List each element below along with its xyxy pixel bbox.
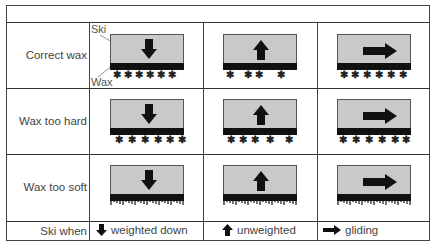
ski-diagram: ✱✱✱✱✱✱ <box>337 34 411 71</box>
ski-diagram <box>223 165 297 202</box>
ski-diagram <box>110 165 184 202</box>
row-divider <box>6 154 430 155</box>
row-label-ski-when: Ski when <box>8 225 87 237</box>
ski-body <box>110 34 184 64</box>
arrow-up-icon <box>253 171 269 191</box>
snowflake-icon: ✱ <box>365 136 373 144</box>
row-divider <box>6 221 430 222</box>
column-divider <box>89 23 90 241</box>
legend-unweighted: unweighted <box>222 224 296 236</box>
snow-grip-points: ✱✱✱✱✱✱ <box>337 71 411 79</box>
legend-label: weighted down <box>111 224 188 236</box>
snowflake-icon: ✱ <box>402 136 410 144</box>
ski-diagram: ✱✱✱✱✱✱ <box>110 34 184 71</box>
snowflake-icon: ✱ <box>124 71 132 79</box>
legend-label: unweighted <box>237 224 296 236</box>
ski-body <box>337 99 411 129</box>
snowflake-icon: ✱ <box>239 136 247 144</box>
snowflake-icon: ✱ <box>399 71 407 79</box>
snowflake-icon: ✱ <box>244 71 252 79</box>
arrow-right-icon <box>363 174 397 190</box>
snow-grip-points: ✱✱✱✱✱✱ <box>110 136 184 144</box>
snowflake-icon: ✱ <box>226 71 234 79</box>
snowflake-icon: ✱ <box>135 71 143 79</box>
arrow-down-icon <box>141 39 157 59</box>
snowflake-icon: ✱ <box>387 71 395 79</box>
arrow-right-icon <box>363 108 397 124</box>
legend-weighted-down: weighted down <box>96 224 188 236</box>
snowflake-icon: ✱ <box>375 71 383 79</box>
ski-body <box>337 34 411 64</box>
row-divider <box>6 88 430 89</box>
ski-body <box>337 165 411 195</box>
arrow-down-icon <box>141 104 157 124</box>
snowflake-icon: ✱ <box>266 136 274 144</box>
column-divider <box>203 23 204 241</box>
ski-body <box>223 34 297 64</box>
snow-grip-points: ✱✱✱✱✱✱ <box>110 71 184 79</box>
snowflake-icon: ✱ <box>255 71 263 79</box>
arrow-down-icon <box>96 224 107 236</box>
ski-body <box>110 99 184 129</box>
arrow-up-icon <box>222 224 233 236</box>
soft-wax-drips <box>337 200 411 205</box>
snowflake-icon: ✱ <box>363 71 371 79</box>
ski-body <box>110 165 184 195</box>
snowflake-icon: ✱ <box>113 71 121 79</box>
snow-grip-points: ✱✱✱✱ <box>223 71 297 79</box>
ski-diagram: ✱✱✱✱✱ <box>223 99 297 136</box>
snowflake-icon: ✱ <box>141 136 149 144</box>
legend-label: gliding <box>345 224 378 236</box>
ski-diagram: ✱✱✱✱✱✱ <box>110 99 184 136</box>
arrow-down-icon <box>141 170 157 190</box>
arrow-right-icon <box>323 225 341 235</box>
snow-grip-points: ✱✱✱✱✱✱ <box>337 136 411 144</box>
snowflake-icon: ✱ <box>285 136 293 144</box>
snowflake-icon: ✱ <box>378 136 386 144</box>
snowflake-icon: ✱ <box>277 71 285 79</box>
row-label-correct-wax: Correct wax <box>8 49 87 61</box>
ski-diagram <box>337 165 411 202</box>
row-label-wax-too-hard: Wax too hard <box>8 115 87 127</box>
legend-gliding: gliding <box>323 224 378 236</box>
ski-body <box>223 165 297 195</box>
soft-wax-drips <box>223 200 297 205</box>
snowflake-icon: ✱ <box>157 71 165 79</box>
snowflake-icon: ✱ <box>339 136 347 144</box>
row-label-wax-too-soft: Wax too soft <box>8 181 87 193</box>
ski-diagram: ✱✱✱✱ <box>223 34 297 71</box>
snowflake-icon: ✱ <box>168 71 176 79</box>
ski-body <box>223 99 297 129</box>
soft-wax-drips <box>110 200 184 205</box>
snowflake-icon: ✱ <box>178 136 186 144</box>
ski-diagram: ✱✱✱✱✱✱ <box>337 99 411 136</box>
snowflake-icon: ✱ <box>352 136 360 144</box>
snowflake-icon: ✱ <box>391 136 399 144</box>
snowflake-icon: ✱ <box>115 136 123 144</box>
arrow-up-icon <box>253 40 269 60</box>
arrow-up-icon <box>253 105 269 125</box>
snowflake-icon: ✱ <box>166 136 174 144</box>
snowflake-icon: ✱ <box>128 136 136 144</box>
snow-grip-points: ✱✱✱✱✱ <box>223 136 297 144</box>
wax-layer <box>337 128 411 135</box>
snowflake-icon: ✱ <box>340 71 348 79</box>
snowflake-icon: ✱ <box>351 71 359 79</box>
snowflake-icon: ✱ <box>227 136 235 144</box>
snowflake-icon: ✱ <box>146 71 154 79</box>
arrow-right-icon <box>363 43 397 59</box>
snowflake-icon: ✱ <box>251 136 259 144</box>
snowflake-icon: ✱ <box>154 136 162 144</box>
header-divider <box>6 22 430 23</box>
column-divider <box>317 23 318 241</box>
